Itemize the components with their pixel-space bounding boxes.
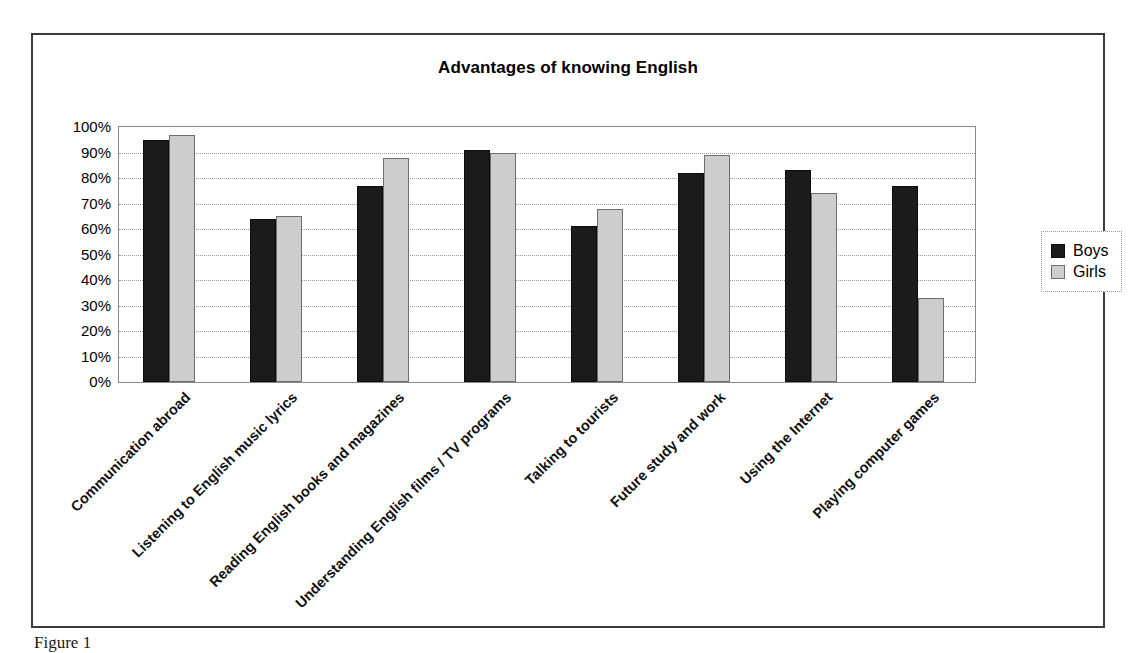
bar-boys <box>571 226 597 382</box>
bar-boys <box>357 186 383 382</box>
bar-boys <box>892 186 918 382</box>
legend-swatch-icon <box>1051 244 1065 258</box>
legend-item-girls[interactable]: Girls <box>1051 263 1109 281</box>
x-axis-category-label: Talking to tourists <box>521 389 620 488</box>
legend-label: Boys <box>1073 242 1109 260</box>
y-axis-tick-label: 10% <box>81 347 111 364</box>
bar-boys <box>250 219 276 382</box>
bar-group <box>119 127 226 382</box>
x-axis-category-label: Communication abroad <box>67 389 193 515</box>
y-axis-tick-label: 0% <box>89 373 111 390</box>
y-axis-tick-label: 70% <box>81 194 111 211</box>
bar-group <box>654 127 761 382</box>
bar-girls <box>490 153 516 383</box>
bar-girls <box>383 158 409 382</box>
y-axis-tick-label: 60% <box>81 220 111 237</box>
y-axis-tick-label: 50% <box>81 245 111 262</box>
x-axis-category-label: Reading English books and magazines <box>206 389 407 590</box>
x-axis-category-label: Listening to English music lyrics <box>128 389 299 560</box>
y-axis-tick-label: 80% <box>81 169 111 186</box>
y-axis-tick-label: 30% <box>81 296 111 313</box>
bar-girls <box>169 135 195 382</box>
chart-legend: BoysGirls <box>1041 231 1122 292</box>
bar-girls <box>811 193 837 382</box>
x-axis-category-label: Using the Internet <box>736 389 834 487</box>
bar-girls <box>704 155 730 382</box>
x-axis-category-label: Playing computer games <box>809 389 942 522</box>
legend-item-boys[interactable]: Boys <box>1051 242 1109 260</box>
y-axis-tick-label: 20% <box>81 322 111 339</box>
bar-group <box>333 127 440 382</box>
plot-area <box>118 126 976 383</box>
y-axis-tick-label: 100% <box>73 118 111 135</box>
bar-group <box>440 127 547 382</box>
chart-title: Advantages of knowing English <box>33 58 1103 78</box>
bar-group <box>761 127 868 382</box>
bar-girls <box>597 209 623 382</box>
bar-girls <box>276 216 302 382</box>
figure-frame: Advantages of knowing English 0%10%20%30… <box>31 33 1105 628</box>
x-axis-labels: Communication abroadListening to English… <box>118 381 974 581</box>
legend-swatch-icon <box>1051 265 1065 279</box>
bar-boys <box>678 173 704 382</box>
bar-girls <box>918 298 944 382</box>
legend-label: Girls <box>1073 263 1106 281</box>
bar-group <box>547 127 654 382</box>
bar-boys <box>143 140 169 382</box>
bar-boys <box>464 150 490 382</box>
bar-boys <box>785 170 811 382</box>
bar-group <box>868 127 975 382</box>
x-axis-category-label: Future study and work <box>607 389 728 510</box>
bar-group <box>226 127 333 382</box>
y-axis-labels: 0%10%20%30%40%50%60%70%80%90%100% <box>51 126 111 381</box>
y-axis-tick-label: 40% <box>81 271 111 288</box>
y-axis-tick-label: 90% <box>81 143 111 160</box>
bars-layer <box>119 127 975 382</box>
figure-caption: Figure 1 <box>34 633 91 653</box>
x-axis-category-label: Understanding English films / TV program… <box>292 389 514 611</box>
